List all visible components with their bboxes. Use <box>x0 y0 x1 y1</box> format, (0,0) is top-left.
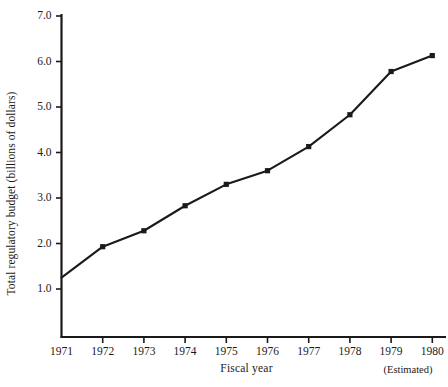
x-axis-tick-label: 1978 <box>330 346 370 358</box>
data-point-marker <box>430 53 435 58</box>
x-axis-tick-label: 1976 <box>248 346 288 358</box>
data-point-marker <box>100 244 105 249</box>
data-point-marker <box>224 182 229 187</box>
data-point-marker <box>389 69 394 74</box>
data-point-marker <box>347 112 352 117</box>
y-axis-tick-label: 1.0 <box>18 283 52 295</box>
x-axis-tick-label: 1977 <box>289 346 329 358</box>
chart-figure: Total regulatory budget (billions of dol… <box>0 0 448 387</box>
x-axis-tick-label: 1971 <box>42 346 82 358</box>
estimated-note: (Estimated) <box>368 364 448 375</box>
x-axis-tick-label: 1979 <box>371 346 411 358</box>
line-chart-plot <box>0 0 448 387</box>
x-axis-tick-label: 1972 <box>83 346 123 358</box>
data-point-markers <box>100 53 435 249</box>
y-axis-tick-label: 3.0 <box>18 192 52 204</box>
x-axis-tick-label: 1980 <box>412 346 448 358</box>
y-axis-tick-label: 2.0 <box>18 238 52 250</box>
data-point-marker <box>306 144 311 149</box>
x-axis-tick-label: 1975 <box>206 346 246 358</box>
x-axis-tick-label: 1973 <box>124 346 164 358</box>
data-point-marker <box>183 203 188 208</box>
y-axis-tick-label: 7.0 <box>18 10 52 22</box>
data-point-marker <box>141 228 146 233</box>
y-axis-tick-label: 6.0 <box>18 56 52 68</box>
x-axis-tick-label: 1974 <box>165 346 205 358</box>
data-line <box>62 56 433 278</box>
y-axis-tick-label: 4.0 <box>18 147 52 159</box>
data-point-marker <box>265 168 270 173</box>
y-axis-tick-label: 5.0 <box>18 101 52 113</box>
